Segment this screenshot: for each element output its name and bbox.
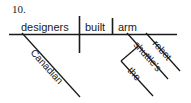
object-word: arm [118, 21, 137, 33]
the-modifier-word: the [126, 65, 144, 83]
subject-word: designers [21, 21, 69, 33]
sentence-diagram-canvas: 10. designers built arm Canadian robot s… [0, 0, 191, 103]
verb-word: built [85, 21, 105, 33]
the-connector-rule [121, 46, 139, 61]
item-number: 10. [12, 3, 26, 15]
canadian-modifier-word: Canadian [29, 47, 66, 86]
sentence-diagram-page: 10. designers built arm Canadian robot s… [0, 0, 191, 103]
